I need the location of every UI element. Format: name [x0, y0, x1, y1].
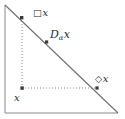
d-operator-symbol: D	[50, 28, 59, 41]
label-d-alpha-x-variable: x	[64, 28, 70, 41]
diamond-operator-icon: ◇	[95, 73, 102, 84]
d-alpha-x-point	[45, 40, 48, 43]
label-x-variable: x	[14, 92, 20, 103]
label-box-x-variable: x	[42, 7, 48, 18]
x-point	[20, 86, 23, 89]
label-box-x: □x	[33, 8, 48, 18]
label-diamond-x: ◇x	[95, 74, 109, 84]
label-diamond-x-variable: x	[103, 73, 109, 84]
label-d-alpha-x: Dαx	[50, 29, 70, 42]
label-x: x	[14, 93, 20, 103]
figure-container: □x Dαx ◇x x	[0, 0, 125, 119]
diamond-x-point	[95, 86, 98, 89]
box-x-point	[20, 16, 23, 19]
d-operator-subscript: α	[59, 34, 64, 42]
box-operator-icon: □	[33, 7, 42, 18]
